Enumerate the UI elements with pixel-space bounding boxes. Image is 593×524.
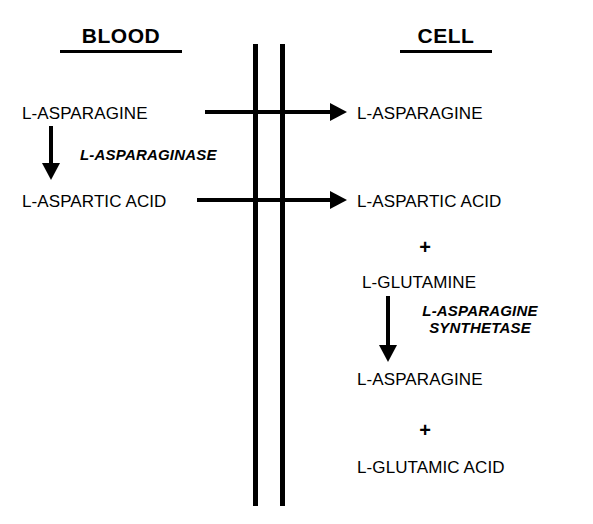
cell-asparagine-synthesized: L-ASPARAGINE [357, 371, 483, 388]
cell-glutamine-label: L-GLUTAMINE [362, 273, 476, 292]
blood-conversion-arrow [38, 126, 64, 180]
cell-glutamine: L-GLUTAMINE [362, 274, 476, 291]
cell-aspartic-acid-imported: L-ASPARTIC ACID [357, 193, 501, 210]
blood-substrate-asparagine: L-ASPARAGINE [22, 105, 148, 122]
arrow-head [330, 103, 347, 121]
blood-product-label: L-ASPARTIC ACID [22, 192, 166, 211]
arrow-head [379, 345, 397, 362]
enzyme-synthetase-line-2: SYNTHETASE [418, 320, 542, 337]
blood-substrate-label: L-ASPARAGINE [22, 104, 148, 123]
cell-plus-sign-upper-label: + [419, 236, 431, 258]
arrow-shaft [197, 198, 333, 202]
enzyme-asparaginase: L-ASPARAGINASE [80, 147, 217, 164]
pathway-diagram: BLOOD CELL L-ASPARAGINE L-ASPARAGINASE L… [0, 0, 593, 524]
enzyme-synthetase-line-1: L-ASPARAGINE [418, 303, 542, 320]
cell-glutamic-acid-label: L-GLUTAMIC ACID [357, 458, 505, 477]
arrow-shaft [386, 296, 390, 348]
arrow-head [42, 163, 60, 180]
enzyme-asparagine-synthetase: L-ASPARAGINE SYNTHETASE [418, 303, 542, 337]
cell-glutamic-acid: L-GLUTAMIC ACID [357, 459, 505, 476]
arrow-shaft [49, 126, 53, 166]
heading-cell-label: CELL [418, 24, 475, 47]
cell-asparagine-imported: L-ASPARAGINE [357, 105, 483, 122]
cell-aspartic-acid-imported-label: L-ASPARTIC ACID [357, 192, 501, 211]
cell-asparagine-synthesized-label: L-ASPARAGINE [357, 370, 483, 389]
heading-cell: CELL [400, 24, 492, 55]
cell-synthesis-arrow [375, 296, 401, 362]
transport-arrow-aspartic-acid [197, 191, 347, 209]
heading-blood-label: BLOOD [82, 24, 160, 47]
enzyme-asparaginase-label: L-ASPARAGINASE [80, 146, 217, 163]
heading-blood-underline [60, 50, 182, 53]
cell-plus-sign-upper: + [413, 237, 437, 257]
cell-plus-sign-lower: + [413, 420, 437, 440]
blood-product-aspartic-acid: L-ASPARTIC ACID [22, 193, 166, 210]
arrow-head [330, 191, 347, 209]
cell-plus-sign-lower-label: + [419, 419, 431, 441]
heading-cell-underline [400, 50, 492, 53]
arrow-shaft [205, 110, 333, 114]
transport-arrow-asparagine [205, 103, 347, 121]
heading-blood: BLOOD [60, 24, 182, 55]
cell-asparagine-imported-label: L-ASPARAGINE [357, 104, 483, 123]
